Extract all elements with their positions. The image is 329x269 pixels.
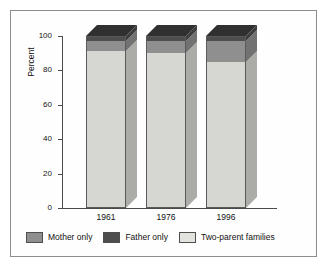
legend-label: Two-parent families	[201, 232, 275, 242]
chart-legend: Mother onlyFather onlyTwo-parent familie…	[26, 229, 304, 245]
legend-swatch-icon-1	[103, 232, 120, 243]
legend-item-two-parent-families[interactable]: Two-parent families	[179, 232, 275, 243]
legend-swatch-icon-0	[26, 232, 43, 243]
legend-swatch-icon-2	[179, 232, 196, 243]
legend-label: Mother only	[48, 232, 92, 242]
legend-label: Father only	[125, 232, 168, 242]
bar-outline-1996	[206, 36, 246, 208]
legend-item-mother-only[interactable]: Mother only	[26, 232, 92, 243]
legend-item-father-only[interactable]: Father only	[103, 232, 168, 243]
bar-side-1996-0	[246, 51, 257, 208]
